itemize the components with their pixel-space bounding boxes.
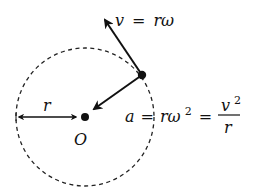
center-label: O: [74, 130, 87, 149]
radius-label: r: [43, 96, 52, 115]
center-point-O: [81, 113, 89, 121]
accel-fraction-numerator: v 2: [221, 94, 241, 115]
acceleration-label: a = rω 2 =: [125, 101, 212, 126]
accel-fraction-denominator: r: [224, 118, 233, 137]
velocity-label: v = rω: [115, 11, 174, 30]
acceleration-arrow: [94, 75, 142, 109]
circular-motion-diagram: r O v = rω a = rω 2 = v 2 r: [0, 0, 257, 196]
particle-point: [138, 71, 146, 79]
